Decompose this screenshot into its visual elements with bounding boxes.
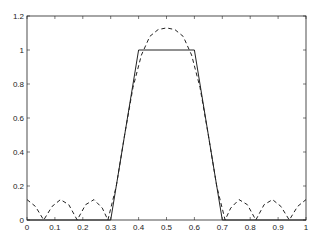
y-tick-label: 0 xyxy=(20,216,25,225)
x-tick-label: 0.6 xyxy=(189,223,201,232)
y-tick-label: 0.4 xyxy=(13,148,25,157)
x-tick-label: 0.4 xyxy=(133,223,145,232)
x-tick-label: 0.1 xyxy=(49,223,61,232)
y-tick-label: 0.6 xyxy=(13,114,25,123)
x-tick-label: 0 xyxy=(25,223,30,232)
plot-area xyxy=(27,16,306,220)
x-tick-label: 0.9 xyxy=(273,223,285,232)
x-tick-label: 0.7 xyxy=(217,223,229,232)
x-tick-label: 0.8 xyxy=(245,223,257,232)
x-tick-label: 1 xyxy=(304,223,309,232)
x-tick-label: 0.3 xyxy=(105,223,117,232)
x-tick-label: 0.2 xyxy=(77,223,89,232)
x-tick-label: 0.5 xyxy=(161,223,173,232)
y-tick-label: 0.2 xyxy=(13,182,25,191)
y-tick-label: 1.2 xyxy=(13,12,25,21)
y-tick-label: 0.8 xyxy=(13,80,25,89)
line-chart: 00.10.20.30.40.50.60.70.80.91 00.20.40.6… xyxy=(0,0,321,241)
y-tick-label: 1 xyxy=(20,46,25,55)
